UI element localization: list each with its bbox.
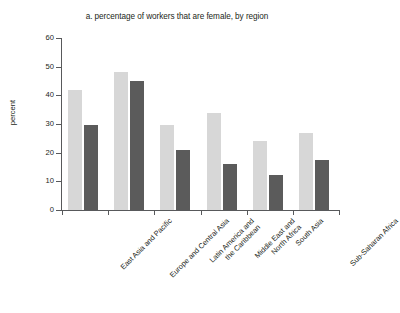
y-tick-label: 0 [16,206,54,214]
bar [114,72,128,210]
x-category-label: East Asia and Pacific [119,217,174,272]
x-tick-mark [108,211,109,215]
y-tick-label-text: 30 [26,120,54,128]
bar [315,160,329,210]
bar [269,175,283,210]
y-tick-label-text: 0 [26,206,54,214]
bar [130,81,144,210]
y-tick-label-text: 40 [26,91,54,99]
y-tick-label: 50 [16,63,54,71]
bar [160,125,174,210]
y-tick-mark [56,181,61,182]
bar [207,113,221,210]
y-tick-label-text: 20 [26,149,54,157]
y-tick-label: 60 [16,34,54,42]
x-tick-mark [339,211,340,215]
y-tick-mark [56,67,61,68]
y-tick-mark [56,124,61,125]
y-tick-label: 10 [16,177,54,185]
y-tick-label: 30 [16,120,54,128]
y-tick-label-text: 50 [26,63,54,71]
plot-area [62,38,339,210]
y-tick-mark [56,153,61,154]
bar [253,141,267,210]
x-tick-mark [62,211,63,215]
y-tick-label: 40 [16,91,54,99]
y-tick-label: 20 [16,149,54,157]
bar [223,164,237,210]
bar [176,150,190,210]
x-tick-mark [293,211,294,215]
y-tick-mark [56,38,61,39]
y-tick-mark [56,95,61,96]
y-tick-mark [56,210,61,211]
x-tick-mark [154,211,155,215]
bar [84,125,98,210]
x-tick-mark [247,211,248,215]
x-category-label: Sub-Saharan Africa [349,217,400,268]
bar [299,133,313,210]
y-tick-label-text: 60 [26,34,54,42]
x-tick-mark [201,211,202,215]
y-tick-label-text: 10 [26,177,54,185]
bar [68,90,82,210]
chart-title: a. percentage of workers that are female… [0,12,354,21]
